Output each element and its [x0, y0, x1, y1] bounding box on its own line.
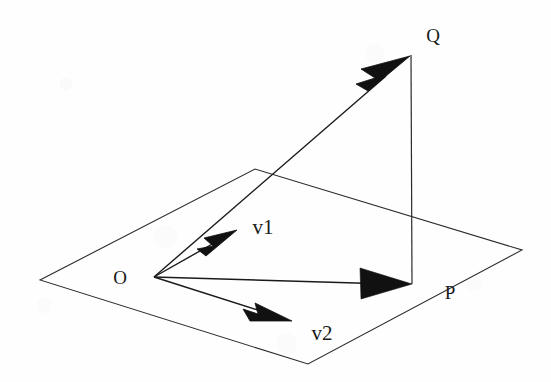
vector-v2-arrowhead [243, 303, 292, 321]
vector-oq-shaft [154, 76, 386, 277]
vector-v2-shaft [154, 277, 264, 312]
segment-pq-vertical [411, 55, 412, 284]
label-vector-v2: v2 [312, 323, 333, 344]
label-point-p: P [445, 283, 456, 302]
label-point-q: Q [426, 26, 440, 45]
vector-oq-arrowhead [356, 56, 410, 91]
diagram-canvas [0, 0, 551, 382]
vector-op-arrowhead [360, 268, 412, 299]
vector-op-shaft [154, 277, 390, 284]
label-origin: O [113, 268, 127, 287]
label-vector-v1: v1 [253, 217, 274, 238]
vector-diagram-figure: O P Q v1 v2 [0, 0, 551, 382]
